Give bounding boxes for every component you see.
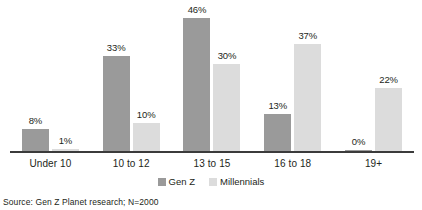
legend-item-gen-z[interactable]: Gen Z — [158, 177, 195, 187]
bar-value-label: 30% — [208, 51, 245, 61]
legend-swatch-gen-z — [158, 178, 166, 186]
legend-label: Gen Z — [169, 177, 195, 187]
bar-millennials-16-to-18[interactable] — [294, 44, 321, 152]
bar-group: 13%37% — [252, 6, 333, 152]
bar-group: 33%10% — [91, 6, 172, 152]
bar-value-label: 1% — [47, 136, 84, 146]
chart-legend: Gen ZMillennials — [0, 177, 422, 187]
x-axis-line — [10, 151, 414, 153]
legend-swatch-millennials — [209, 178, 217, 186]
bar-value-label: 0% — [340, 137, 377, 147]
bar-gen-z-13-to-15[interactable] — [183, 18, 210, 152]
bar-group: 0%22% — [333, 6, 414, 152]
x-axis-label-13-to-15: 13 to 15 — [172, 158, 253, 170]
bar-millennials-10-to-12[interactable] — [133, 123, 160, 152]
bar-value-label: 13% — [259, 101, 296, 111]
bar-chart: 8%1%33%10%46%30%13%37%0%22% Under 1010 t… — [0, 0, 422, 210]
legend-label: Millennials — [220, 177, 264, 187]
bar-group: 8%1% — [10, 6, 91, 152]
plot-area: 8%1%33%10%46%30%13%37%0%22% — [10, 6, 414, 152]
legend-item-millennials[interactable]: Millennials — [209, 177, 264, 187]
bar-value-label: 22% — [370, 75, 407, 85]
bar-gen-z-under-10[interactable] — [22, 129, 49, 152]
x-axis-label-16-to-18: 16 to 18 — [252, 158, 333, 170]
bar-millennials-19-[interactable] — [375, 88, 402, 152]
bar-gen-z-16-to-18[interactable] — [264, 114, 291, 152]
bar-group: 46%30% — [172, 6, 253, 152]
bar-value-label: 33% — [98, 43, 135, 53]
bar-value-label: 8% — [17, 116, 54, 126]
bar-gen-z-10-to-12[interactable] — [103, 56, 130, 152]
bar-millennials-13-to-15[interactable] — [213, 64, 240, 152]
x-axis-label-10-to-12: 10 to 12 — [91, 158, 172, 170]
source-note: Source: Gen Z Planet research; N=2000 — [3, 197, 159, 207]
x-axis-label-under-10: Under 10 — [10, 158, 91, 170]
bar-value-label: 37% — [289, 31, 326, 41]
x-axis-label-19-: 19+ — [333, 158, 414, 170]
bar-value-label: 10% — [128, 110, 165, 120]
bar-value-label: 46% — [178, 5, 215, 15]
